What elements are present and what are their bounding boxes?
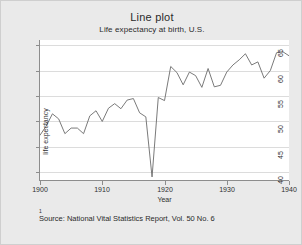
x-tick-label: 1900 bbox=[25, 186, 55, 194]
plot-inner bbox=[40, 40, 289, 180]
line-series bbox=[40, 40, 289, 180]
x-tick-mark bbox=[165, 181, 166, 185]
footnote: 1 Source: National Vital Statistics Repo… bbox=[39, 208, 289, 224]
footnote-source-text: Source: National Vital Statistics Report… bbox=[39, 214, 289, 224]
page-title: Line plot bbox=[1, 11, 302, 24]
x-tick-mark bbox=[289, 181, 290, 185]
y-tick-label: 60 bbox=[277, 71, 285, 87]
chart-subtitle: Life expectancy at birth, U.S. bbox=[1, 24, 302, 35]
y-tick-mark bbox=[36, 96, 40, 97]
x-tick-mark bbox=[227, 181, 228, 185]
x-tick-mark bbox=[40, 181, 41, 185]
y-tick-mark bbox=[36, 172, 40, 173]
y-tick-label: 65 bbox=[277, 45, 285, 61]
y-tick-mark bbox=[36, 45, 40, 46]
y-tick-label: 45 bbox=[277, 147, 285, 163]
y-tick-label: 50 bbox=[277, 121, 285, 137]
x-tick-mark bbox=[102, 181, 103, 185]
x-tick-label: 1930 bbox=[212, 186, 242, 194]
plot-area: life expectancy 404550556065 19001910192… bbox=[39, 40, 289, 181]
x-tick-label: 1940 bbox=[274, 186, 302, 194]
y-tick-mark bbox=[36, 71, 40, 72]
y-tick-label: 55 bbox=[277, 96, 285, 112]
figure-canvas: Line plot Life expectancy at birth, U.S.… bbox=[0, 0, 302, 245]
x-tick-label: 1910 bbox=[87, 186, 117, 194]
title-block: Line plot Life expectancy at birth, U.S. bbox=[1, 11, 302, 35]
y-tick-mark bbox=[36, 147, 40, 148]
x-axis-label: Year bbox=[40, 196, 289, 203]
y-axis-label: life expectancy bbox=[42, 94, 49, 170]
x-tick-label: 1920 bbox=[150, 186, 180, 194]
y-tick-mark bbox=[36, 121, 40, 122]
